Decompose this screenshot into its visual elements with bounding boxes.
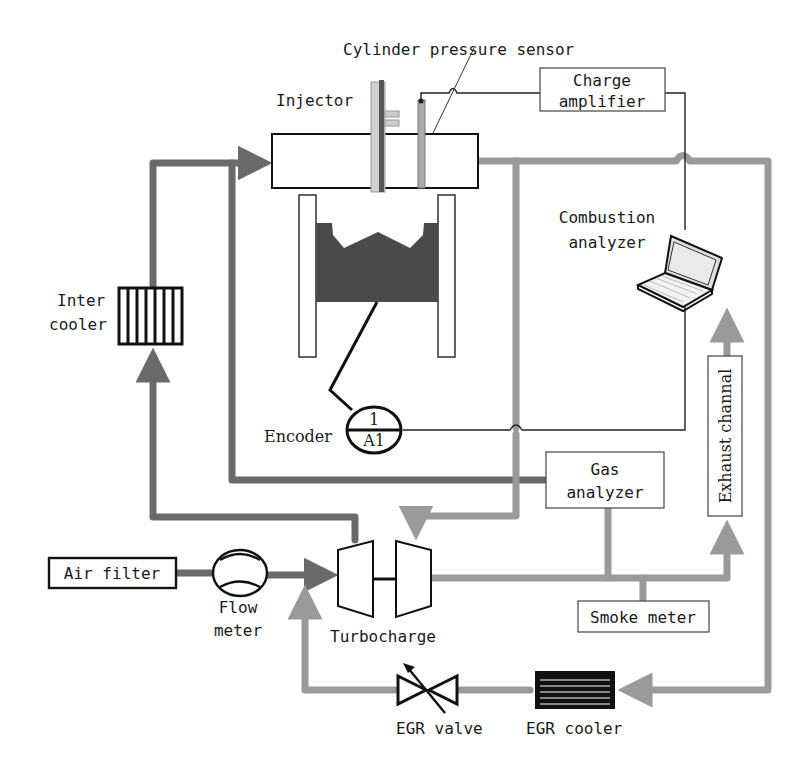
- egr-valve-icon: [398, 663, 457, 713]
- flow-meter-label-line2: meter: [214, 621, 263, 640]
- piston: [316, 223, 438, 302]
- intercooler-icon: [119, 288, 182, 344]
- flow-meter-label-line1: Flow: [219, 598, 258, 617]
- flow-meter-icon: [213, 550, 267, 596]
- intercooler-label-line2: cooler: [49, 315, 107, 334]
- intake-pipe-to-head: [153, 163, 262, 288]
- charge-amplifier-label-line2: amplifier: [559, 92, 646, 111]
- turbine-outlet-pipe: [432, 530, 727, 578]
- combustion-analyzer-label-line2: analyzer: [568, 233, 645, 252]
- intake-pipe-compressor-to-intercooler: [153, 358, 355, 540]
- sensor-leader-line: [433, 48, 474, 133]
- connecting-rod: [330, 302, 377, 410]
- intercooler-label-line1: Inter: [57, 291, 106, 310]
- smoke-meter-label: Smoke meter: [590, 608, 696, 627]
- turbocharger-label: Turbocharge: [330, 627, 436, 646]
- charge-amplifier-label-line1: Charge: [573, 71, 631, 90]
- encoder-icon: 1 A1: [347, 407, 401, 453]
- engine-test-bench-diagram: 1 A1 Encoder Inter cooler Charge amplifi…: [0, 0, 812, 773]
- pipe-crossover-bump: [676, 156, 690, 162]
- gas-analyzer-label-line2: analyzer: [566, 483, 643, 502]
- cylinder-wall-right: [438, 195, 455, 357]
- wire-sensor-to-amplifier: [421, 89, 540, 101]
- laptop-icon: [638, 236, 722, 311]
- encoder-bottom-mark: A1: [362, 431, 385, 450]
- egr-cooler-label: EGR cooler: [526, 719, 623, 738]
- encoder-label: Encoder: [264, 427, 332, 446]
- cylinder-wall-left: [299, 195, 316, 357]
- egr-valve-label: EGR valve: [396, 719, 483, 738]
- turbocharger-icon: [338, 541, 431, 617]
- injector-label: Injector: [276, 91, 353, 110]
- pressure-sensor-icon: [418, 99, 425, 189]
- egr-cooler-icon: [535, 671, 615, 709]
- combustion-analyzer-label-line1: Combustion: [559, 208, 655, 227]
- exhaust-channel-label: Exhaust channal: [716, 369, 735, 504]
- air-filter-label: Air filter: [64, 564, 161, 583]
- gas-analyzer-label-line1: Gas: [591, 460, 620, 479]
- cylinder-pressure-sensor-label: Cylinder pressure sensor: [343, 40, 575, 59]
- encoder-top-mark: 1: [369, 410, 379, 429]
